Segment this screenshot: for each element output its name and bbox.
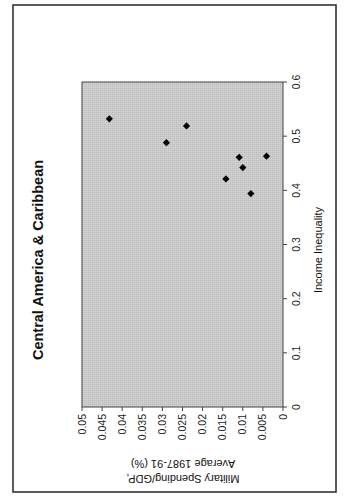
y-tick-label: 0.015	[216, 414, 228, 440]
y-tick-label: 0.045	[96, 414, 108, 440]
y-tick-label: 0.025	[176, 414, 188, 440]
y-axis-title-line-1: Military Spending/GDP,	[127, 473, 240, 485]
y-tick-label: 0.05	[76, 414, 88, 435]
y-tick-label: 0.005	[256, 414, 268, 440]
chart-title: Central America & Caribbean	[30, 160, 46, 360]
y-tick-label: 0.03	[156, 414, 168, 435]
y-tick-label: 0.035	[136, 414, 148, 440]
y-tick-label: 0	[277, 414, 289, 420]
x-tick-label: 0.1	[290, 345, 302, 360]
y-axis-title-line-2: Average 1987-91 (%)	[131, 458, 235, 470]
x-axis-title: Income Inequality	[312, 206, 324, 293]
scatter-chart: Central America & Caribbean 00.10.20.30.…	[0, 0, 345, 499]
x-tick-label: 0.3	[290, 237, 302, 252]
x-tick-label: 0	[290, 404, 302, 410]
y-tick-label: 0.04	[116, 414, 128, 435]
x-tick-label: 0.4	[290, 183, 302, 198]
x-tick-label: 0.6	[290, 75, 302, 90]
rotated-chart-canvas: Central America & Caribbean 00.10.20.30.…	[0, 0, 345, 499]
x-tick-label: 0.2	[290, 291, 302, 306]
x-tick-label: 0.5	[290, 129, 302, 144]
y-tick-label: 0.01	[236, 414, 248, 435]
plot-area	[82, 82, 283, 407]
y-tick-label: 0.02	[196, 414, 208, 435]
